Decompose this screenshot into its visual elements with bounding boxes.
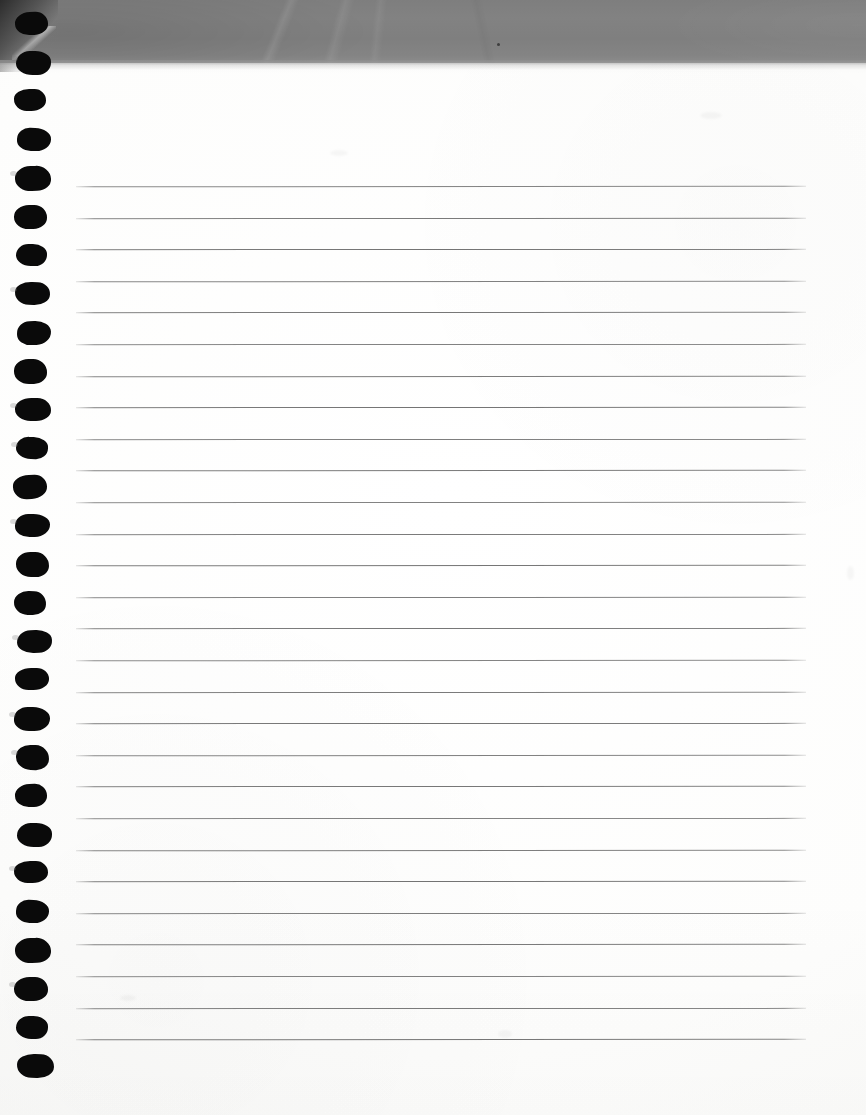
- hole-edge-nick: [10, 403, 17, 408]
- punch-hole: [14, 165, 51, 191]
- punch-hole: [16, 244, 47, 266]
- hole-edge-nick: [9, 866, 16, 871]
- punch-hole: [16, 899, 50, 923]
- paper-smudge-upper-right: [700, 112, 722, 119]
- hole-edge-nick: [9, 982, 16, 987]
- paper-smudge-left-low: [120, 995, 136, 1001]
- hole-edge-nick: [10, 171, 17, 176]
- punch-hole: [15, 783, 48, 807]
- paper-background: [0, 0, 866, 1115]
- punch-hole: [15, 744, 49, 770]
- spiral-binding-holes: [0, 0, 60, 1115]
- punch-hole: [14, 89, 46, 111]
- punch-hole: [14, 205, 47, 229]
- punch-hole: [13, 474, 48, 499]
- hole-edge-nick: [12, 635, 19, 640]
- punch-hole: [17, 823, 52, 847]
- punch-hole: [14, 861, 48, 883]
- hole-edge-nick: [10, 519, 17, 524]
- band-bottom-fade: [0, 60, 866, 74]
- punch-hole: [16, 1016, 48, 1039]
- punch-hole: [15, 398, 51, 422]
- punch-hole: [14, 707, 50, 732]
- punch-hole: [15, 11, 49, 35]
- punch-hole: [16, 51, 51, 75]
- punch-hole: [17, 127, 52, 151]
- punch-hole: [16, 552, 49, 577]
- hole-edge-nick: [11, 56, 18, 61]
- paper-smudge-upper-left: [330, 150, 348, 156]
- punch-hole: [15, 668, 49, 690]
- punch-hole: [17, 629, 53, 653]
- punch-hole: [14, 359, 47, 384]
- scanner-backing-band: [0, 0, 866, 63]
- punch-hole: [17, 320, 52, 345]
- band-dust-speck: [497, 43, 500, 46]
- punch-hole: [14, 937, 51, 963]
- punch-hole: [15, 281, 51, 305]
- punch-hole: [17, 1053, 55, 1079]
- scanned-notepad-page: [0, 0, 866, 1115]
- punch-hole: [14, 590, 47, 615]
- punch-hole: [15, 514, 50, 537]
- band-texture-overlay: [0, 0, 866, 63]
- punch-hole: [16, 436, 49, 459]
- hole-edge-nick: [11, 750, 18, 755]
- hole-edge-nick: [10, 287, 17, 292]
- punch-hole: [14, 977, 48, 1001]
- hole-edge-nick: [11, 442, 18, 447]
- paper-smudge-center: [498, 1030, 512, 1038]
- paper-smudge-mid-right: [847, 566, 854, 580]
- hole-edge-nick: [9, 712, 16, 717]
